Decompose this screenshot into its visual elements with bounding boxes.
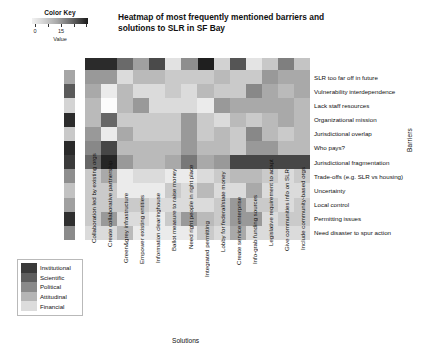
column-annotation-swatch [230, 58, 246, 70]
heatmap-cell [181, 70, 197, 84]
legend-item: Financial [21, 301, 79, 311]
heatmap-cell [294, 84, 310, 98]
heatmap-cell [165, 113, 181, 127]
heatmap-cell [101, 127, 117, 141]
row-annotation-swatch [64, 98, 75, 112]
row-label: Permitting issues [314, 212, 410, 226]
heatmap-cell [101, 70, 117, 84]
column-annotation-swatch [246, 58, 262, 70]
color-key-tick-labels: 0 15 [32, 28, 88, 36]
heatmap-cell [230, 70, 246, 84]
row-annotation-swatch [64, 198, 75, 212]
column-label: Create collaborative partnership [106, 160, 113, 246]
heatmap-cell [246, 84, 262, 98]
row-annotation-swatch [64, 169, 75, 183]
column-label: Lobby for federal/state money [218, 172, 225, 253]
column-annotation-swatch [149, 58, 165, 70]
row-annotation-swatch [64, 84, 75, 98]
heatmap-cell [165, 127, 181, 141]
legend-item: Scientific [21, 273, 79, 283]
heatmap-cell [117, 141, 133, 155]
row-label: Local control [314, 198, 410, 212]
cols-axis-label: Solutions [172, 337, 199, 344]
heatmap-cell [133, 70, 149, 84]
rows-axis-label: Barriers [406, 128, 413, 152]
row-annotation-swatch [64, 113, 75, 127]
heatmap-cell [262, 98, 278, 112]
column-annotation-swatch [181, 58, 197, 70]
row-annotation-swatch [64, 212, 75, 226]
legend-label: Scientific [40, 274, 64, 281]
heatmap-cell [262, 84, 278, 98]
heatmap-cell [278, 84, 294, 98]
row-label: Vulnerability interdependence [314, 84, 410, 98]
heatmap-cell [149, 98, 165, 112]
column-annotation-swatch [278, 58, 294, 70]
color-key: Color Key 0 15 Value [29, 9, 91, 42]
heatmap-cell [197, 169, 213, 183]
color-key-title: Color Key [29, 9, 91, 16]
heatmap-cell [101, 113, 117, 127]
heatmap-cell [197, 198, 213, 212]
column-annotation-swatch [165, 58, 181, 70]
heatmap-cell [230, 183, 246, 197]
row-label: Uncertainty [314, 183, 410, 197]
heatmap-cell [165, 98, 181, 112]
row-label: Lack staff resources [314, 98, 410, 112]
legend-swatch [21, 273, 37, 283]
heatmap-cell [246, 98, 262, 112]
heatmap-cell [294, 113, 310, 127]
color-key-axis-label: Value [32, 36, 88, 42]
heatmap-cell [246, 127, 262, 141]
row-annotation-swatch [64, 127, 75, 141]
column-label: Empower existing entities [138, 195, 145, 264]
column-label: Need right people in right place [186, 164, 193, 248]
column-label: Information clearinghouse [154, 193, 161, 263]
heatmap-grid [85, 70, 310, 240]
row-annotation-swatch [64, 70, 75, 84]
heatmap-cell [197, 113, 213, 127]
heatmap-cell [117, 98, 133, 112]
heatmap-cell [85, 98, 101, 112]
column-label: Ballot measure to raise money [170, 168, 177, 250]
legend-item: Attitudinal [21, 292, 79, 302]
heatmap-cell [214, 113, 230, 127]
heatmap-cell [149, 127, 165, 141]
column-label: Green&grey infrastructure [122, 193, 129, 263]
column-annotation-swatch [294, 58, 310, 70]
legend-label: Financial [40, 303, 64, 310]
column-label: Give communities info on SLR [282, 169, 289, 251]
heatmap-cell [117, 169, 133, 183]
heatmap-cell [133, 84, 149, 98]
row-annotation-strip [64, 70, 75, 240]
column-label: Legislative requirement to adapt [266, 160, 273, 247]
heatmap-cell [294, 70, 310, 84]
heatmap-cell [181, 141, 197, 155]
heatmap-cell [117, 113, 133, 127]
legend-label: Institutional [40, 264, 71, 271]
heatmap-cell [133, 155, 149, 169]
heatmap-cell [117, 155, 133, 169]
legend-swatch [21, 301, 37, 311]
heatmap-cell [101, 141, 117, 155]
column-annotation-swatch [117, 58, 133, 70]
heatmap-cell [230, 141, 246, 155]
heatmap-cell [165, 155, 181, 169]
heatmap-cell [101, 98, 117, 112]
column-annotation-swatch [214, 58, 230, 70]
row-label: Need disaster to spur action [314, 226, 410, 240]
heatmap-cell [149, 155, 165, 169]
heatmap-cell [230, 169, 246, 183]
legend-label: Attitudinal [40, 293, 67, 300]
heatmap-cell [230, 127, 246, 141]
chart-title: Heatmap of most frequently mentioned bar… [118, 12, 333, 34]
heatmap-cell [197, 84, 213, 98]
heatmap-cell [165, 70, 181, 84]
heatmap-cell [133, 169, 149, 183]
heatmap-cell [278, 127, 294, 141]
heatmap-cell [214, 141, 230, 155]
heatmap-cell [133, 141, 149, 155]
heatmap-cell [181, 127, 197, 141]
heatmap-cell [214, 127, 230, 141]
heatmap-cell [294, 141, 310, 155]
